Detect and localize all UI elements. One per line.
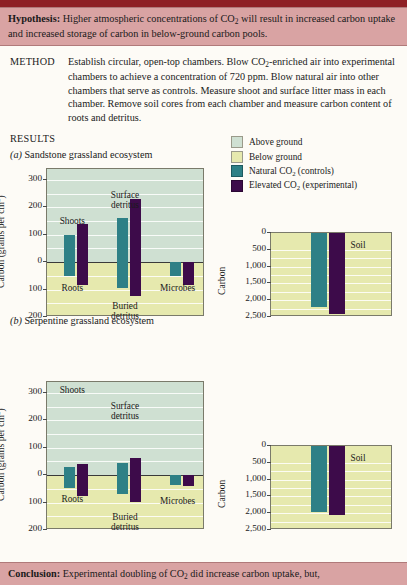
panel-b-soil-ytick: 1,000: [232, 473, 266, 483]
panel-a-soil-plot: [270, 232, 392, 316]
panel-b-soil-gridline: [271, 522, 391, 523]
panel-a-soil-ytickmark: [267, 316, 271, 317]
panel-b-ytickmark: [43, 529, 47, 530]
panel-a-main-ylabel: Carbon (grams per cm2): [0, 164, 6, 320]
panel-b-ytickmark: [43, 447, 47, 448]
panel-a-bar-above-0-0: [64, 235, 75, 262]
panel-b-gridline: [47, 434, 203, 435]
panel-a-soil-ytickmark: [267, 282, 271, 283]
panel-a-group-label-above-1: Surfacedetritus: [99, 190, 152, 210]
panel-b-ylabel-text: Carbon (grams per cm: [0, 415, 6, 501]
panel-a-group-label-below-2: Microbes: [145, 283, 210, 293]
panel-a-ylabel-close: ): [0, 196, 6, 199]
panel-b-soil-ytickmark: [267, 495, 271, 496]
panel-a-ylabel-exponent: 2: [0, 199, 1, 202]
panel-a-bar-below-1-2: [183, 262, 194, 285]
panel-b-bar-above-0-0: [64, 467, 75, 475]
legend-label-elevated-co2: Elevated CO2 (experimental): [249, 180, 357, 191]
panel-a-soil-ytick: 2,500: [232, 310, 266, 320]
legend-item-elevated-co2: Elevated CO2 (experimental): [231, 180, 403, 192]
panel-a-bar-above-0-1: [117, 218, 128, 262]
panel-b-ytickmark: [43, 474, 47, 475]
panel-b-bar-above-1-0: [77, 464, 88, 475]
panel-a-soil-ytick: 2,000: [232, 293, 266, 303]
panel-a-ytick: 100: [10, 283, 42, 293]
panel-a-group-label-above-0: Shoots: [46, 216, 99, 226]
panel-b-group-label-below-0: Roots: [40, 494, 105, 504]
panel-a-soil-area-label: Soil: [351, 240, 366, 250]
panel-b-soil-plot: [270, 445, 392, 529]
panel-b-bar-below-1-2: [183, 475, 194, 485]
panel-b-soil-ytickmark: [267, 512, 271, 513]
panel-b-ytick: 200: [10, 523, 42, 533]
panel-b-bar-below-1-1: [130, 475, 141, 502]
panel-b-soil-ytick: 1,500: [232, 489, 266, 499]
legend-label-elevated-co2-text: Elevated CO: [249, 180, 297, 190]
panel-b-gridline: [47, 448, 203, 449]
panel-a-ytick: 100: [10, 228, 42, 238]
panel-a-ytickmark: [43, 316, 47, 317]
panel-a-bar-above-1-0: [77, 224, 88, 262]
panel-b-ylabel-close: ): [0, 409, 6, 412]
panel-b-bar-below-0-0: [64, 475, 75, 488]
conclusion-box: Conclusion: Experimental doubling of CO2…: [0, 562, 407, 585]
panel-b-soil-bar-0: [311, 446, 327, 512]
panel-b-bar-below-1-0: [77, 475, 88, 496]
panel-a-bar-below-1-0: [77, 262, 88, 285]
panel-a-bar-below-0-2: [170, 262, 181, 276]
panel-a-group-label-below-0: Roots: [40, 283, 105, 293]
panel-a-ytickmark: [43, 206, 47, 207]
panel-b-soil-ytick: 2,000: [232, 506, 266, 516]
panel-a-soil-ytickmark: [267, 232, 271, 233]
panel-b-soil-ytickmark: [267, 529, 271, 530]
panel-b-soil-ylabel: Carbon: [216, 459, 227, 529]
panel-b-ytick: 200: [10, 413, 42, 423]
panel-a-ytick: 200: [10, 200, 42, 210]
panel-a-ytick: 200: [10, 310, 42, 320]
panel-a-soil-ytick: 1,500: [232, 276, 266, 286]
panel-b-soil-ytickmark: [267, 462, 271, 463]
panel-a-soil-ytick: 500: [232, 243, 266, 253]
conclusion-text-part2: did increase carbon uptake, but,: [188, 568, 320, 579]
panel-b-bar-below-0-1: [117, 475, 128, 494]
legend-swatch-elevated-co2: [231, 180, 243, 192]
panel-b-charts: 3002001000100200Carbon (grams per cm2)Sh…: [0, 0, 407, 180]
panel-b-soil-ytickmark: [267, 479, 271, 480]
panel-a-bar-below-0-0: [64, 262, 75, 276]
panel-b-bar-below-0-2: [170, 475, 181, 485]
panel-a-ytickmark: [43, 234, 47, 235]
panel-a-bar-below-0-1: [117, 262, 128, 288]
panel-b-group-label-above-0: Shoots: [46, 385, 99, 395]
panel-a-group-label-below-1: Burieddetritus: [93, 301, 158, 321]
panel-a-soil-ytick: 0: [232, 226, 266, 236]
panel-a-ytick: 0: [10, 255, 42, 265]
panel-b-group-label-below-1: Burieddetritus: [93, 512, 158, 532]
panel-b-soil-ytick: 500: [232, 456, 266, 466]
panel-b-bar-above-1-1: [130, 458, 141, 475]
panel-a-soil-ytickmark: [267, 299, 271, 300]
panel-a-soil-ytickmark: [267, 266, 271, 267]
panel-a-ylabel-text: Carbon (grams per cm: [0, 202, 6, 288]
panel-b-main-ylabel: Carbon (grams per cm2): [0, 377, 6, 533]
panel-b-soil-area-label: Soil: [351, 453, 366, 463]
panel-b-soil-ytick: 2,500: [232, 523, 266, 533]
panel-a-soil-ylabel: Carbon: [216, 246, 227, 316]
panel-a-soil-bar-1: [329, 233, 345, 314]
panel-b-ytick: 100: [10, 496, 42, 506]
panel-a-bar-below-1-1: [130, 262, 141, 296]
panel-b-soil-ytick: 0: [232, 439, 266, 449]
conclusion-text-part1: Experimental doubling of CO: [60, 568, 184, 579]
panel-b-ylabel-exponent: 2: [0, 412, 1, 415]
panel-a-gridline: [47, 180, 203, 181]
legend-label-elevated-co2-suffix: (experimental): [300, 180, 357, 190]
panel-a-soil-ytick: 1,000: [232, 260, 266, 270]
panel-a-soil-bar-0: [311, 233, 327, 307]
panel-b-soil-bar-1: [329, 446, 345, 515]
panel-b-group-label-below-2: Microbes: [145, 496, 210, 506]
panel-b-ytick: 300: [10, 386, 42, 396]
panel-b-bar-above-0-1: [117, 463, 128, 475]
conclusion-label: Conclusion:: [8, 568, 60, 579]
panel-b-ytickmark: [43, 419, 47, 420]
panel-a-soil-ytickmark: [267, 249, 271, 250]
panel-a-ytickmark: [43, 261, 47, 262]
